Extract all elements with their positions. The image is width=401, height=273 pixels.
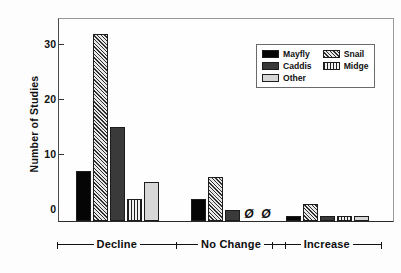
x-category-decline: Decline	[57, 238, 177, 250]
legend-item-other: Other	[262, 73, 312, 83]
legend-swatch-caddis-icon	[262, 62, 279, 70]
legend-swatch-snail-icon	[323, 50, 340, 58]
bar-snail-decline	[93, 34, 108, 221]
x-category-label: Increase	[304, 238, 350, 250]
bar-slot	[207, 19, 224, 221]
zero-marker: Ø	[261, 208, 270, 221]
bar-slot	[224, 19, 241, 221]
y-tick-mark	[59, 99, 64, 100]
legend-label: Mayfly	[283, 49, 310, 59]
bar-midge-increase	[337, 216, 352, 222]
bar-other-decline	[144, 182, 159, 221]
bar-caddis-no-change	[225, 210, 240, 221]
y-tick-0: 0	[50, 203, 59, 215]
bar-slot	[126, 19, 143, 221]
bracket-left	[176, 244, 198, 245]
bar-snail-increase	[303, 204, 318, 221]
legend-item-mayfly: Mayfly	[262, 49, 312, 59]
bar-slot	[109, 19, 126, 221]
bar-caddis-increase	[320, 216, 335, 222]
legend-label: Snail	[344, 49, 365, 59]
y-axis-title: Number of Studies	[28, 44, 40, 204]
legend-label: Midge	[344, 61, 369, 71]
y-tick-mark	[59, 154, 64, 155]
legend-label: Other	[283, 73, 306, 83]
x-category-increase: Increase	[272, 238, 382, 250]
bar-slot	[190, 19, 207, 221]
bar-other-increase	[354, 216, 369, 222]
legend-item-midge: Midge	[323, 61, 369, 71]
x-category-label: Decline	[97, 238, 138, 250]
bracket-right	[140, 244, 177, 245]
legend-item-caddis: Caddis	[262, 61, 312, 71]
bar-group-decline	[75, 19, 160, 221]
bar-midge-decline	[127, 199, 142, 221]
chart-legend: MayflySnailCaddisMidgeOther-	[256, 44, 375, 88]
legend-swatch-mayfly-icon	[262, 50, 279, 58]
legend-swatch-other-icon	[262, 74, 279, 82]
zero-marker: Ø	[244, 208, 253, 221]
legend-label: Caddis	[283, 61, 312, 71]
bracket-right	[353, 244, 382, 245]
bar-caddis-decline	[110, 127, 125, 221]
bar-slot: Ø	[241, 19, 258, 221]
legend-swatch-midge-icon	[323, 62, 340, 70]
bar-chart-figure: Number of Studies 1020300 ØØ MayflySnail…	[0, 0, 401, 273]
bar-mayfly-decline	[76, 171, 91, 221]
x-category-no-change: No Change	[176, 238, 286, 250]
y-tick-30: 30	[44, 38, 59, 50]
y-tick-10: 10	[44, 148, 59, 160]
bracket-left	[272, 244, 301, 245]
bar-mayfly-increase	[286, 216, 301, 222]
bar-slot	[75, 19, 92, 221]
y-tick-mark	[59, 44, 64, 45]
bar-slot	[92, 19, 109, 221]
y-tick-20: 20	[44, 93, 59, 105]
legend-item-snail: Snail	[323, 49, 369, 59]
bar-snail-no-change	[208, 177, 223, 221]
x-category-label: No Change	[201, 238, 261, 250]
bar-slot	[143, 19, 160, 221]
bar-mayfly-no-change	[191, 199, 206, 221]
bracket-left	[57, 244, 94, 245]
